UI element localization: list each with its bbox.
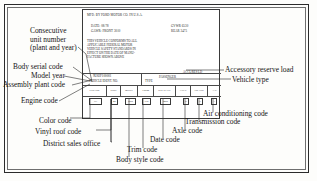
annotation-transmission-code: Transmission code [185,118,240,127]
leader-consecutive-unit [78,47,92,82]
annotation-vehicle-type: Vehicle type [232,76,269,85]
annotation-district-sales-office: District sales office [43,140,100,149]
annotation-consecutive-line-3: (plant and year) [30,44,77,53]
annotation-color-code: Color code [39,117,72,126]
annotation-vinyl-roof-code: Vinyl roof code [35,128,81,137]
annotation-accessory-reserve-load: Accessory reserve load [225,66,294,75]
diagram-page: MFD. BY FORD MOTOR CO. IN U.S.A. DATE: 0… [0,0,317,181]
annotation-air-conditioning-code: Air conditioning code [203,110,268,119]
leader-vinyl-roof [96,99,111,130]
annotation-body-style-code: Body style code [116,156,164,165]
annotation-axle-code: Axle code [172,127,202,136]
annotation-date-code: Date code [150,136,180,145]
annotation-trim-code: Trim code [127,146,157,155]
annotation-engine-code: Engine code [21,97,58,106]
annotation-consecutive-unit-number: Consecutive unit number (plant and year) [30,27,77,53]
annotation-assembly-plant-code: Assembly plant code [3,81,65,90]
leader-color-code [70,99,90,118]
